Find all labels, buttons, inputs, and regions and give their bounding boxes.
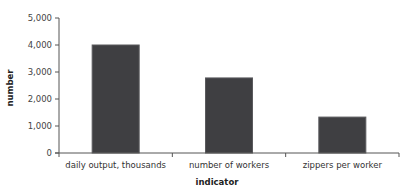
y-axis-title: number (5, 69, 15, 107)
y-tick-label: 3,000 (28, 67, 52, 77)
y-tick-label: 1,000 (28, 121, 52, 131)
y-tick-label: 0 (47, 148, 52, 158)
y-tick-label: 4,000 (28, 40, 52, 50)
bar-number-of-workers (206, 78, 253, 153)
x-category-label: daily output, thousands (65, 160, 166, 170)
y-tick-label: 5,000 (28, 13, 52, 23)
x-category-label: zippers per worker (303, 160, 383, 170)
bar-zippers-per-worker (319, 117, 366, 153)
x-category-label: number of workers (189, 160, 270, 170)
y-axis-ticks: 01,0002,0003,0004,0005,000 (28, 13, 59, 158)
chart-canvas: 01,0002,0003,0004,0005,000 daily output,… (0, 0, 407, 192)
bar-chart: 01,0002,0003,0004,0005,000 daily output,… (0, 0, 407, 192)
x-axis-ticks: daily output, thousandsnumber of workers… (59, 153, 399, 170)
x-axis-title: indicator (196, 177, 240, 187)
bar-series (92, 45, 366, 153)
y-tick-label: 2,000 (28, 94, 52, 104)
bar-daily-output-thousands (92, 45, 139, 153)
